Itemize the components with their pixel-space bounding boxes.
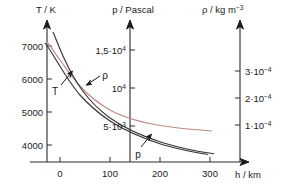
bottom-axis-title: h / km (235, 169, 261, 180)
middle-tick-mantissa-2: 5·10 (103, 121, 122, 132)
svg-text:ρ / kg m−3: ρ / kg m−3 (202, 4, 244, 16)
left-tick-label-7000: 7000 (22, 41, 43, 52)
middle-tick-mantissa-1: 10 (112, 83, 123, 94)
right-axis-title: ρ / kg m−3 (202, 4, 244, 16)
curve-pressure-p (45, 43, 208, 155)
right-axis-title-exponent: −3 (236, 4, 244, 11)
left-axis-group (44, 20, 52, 162)
middle-axis-title: p / Pascal (112, 4, 154, 15)
bottom-tick-label-100: 100 (102, 168, 118, 179)
left-tick-label-4000: 4000 (22, 140, 43, 151)
right-tick-exponent-0: −4 (264, 66, 272, 73)
atmosphere-profile-chart: T / K p / Pascal ρ / kg m−3 h / km 7000 … (0, 0, 281, 187)
curve-label-density: ρ (102, 70, 108, 81)
curve-density-rho (47, 42, 213, 132)
middle-tick-label-10000: 104 (112, 83, 127, 95)
right-tick-label-2e-4: 2·10−4 (245, 93, 272, 105)
middle-tick-label-15000: 1,5·104 (95, 45, 126, 57)
left-axis-title: T / K (36, 4, 57, 15)
right-tick-mantissa-2: 1·10 (245, 120, 264, 131)
middle-axis-group (127, 20, 135, 162)
bottom-tick-label-300: 300 (202, 168, 218, 179)
left-tick-label-5000: 5000 (22, 107, 43, 118)
middle-tick-exponent-0: 4 (122, 45, 126, 52)
left-tick-label-6000: 6000 (22, 74, 43, 85)
middle-tick-exponent-1: 4 (122, 83, 126, 90)
chart-canvas: T / K p / Pascal ρ / kg m−3 h / km 7000 … (0, 0, 281, 187)
right-tick-mantissa-1: 2·10 (245, 93, 264, 104)
right-tick-label-3e-4: 3·10−4 (245, 66, 272, 78)
middle-tick-exponent-2: 3 (122, 121, 126, 128)
right-axis-title-rest: / kg m (207, 4, 236, 15)
right-axis-group (235, 20, 243, 162)
bottom-tick-label-0: 0 (57, 168, 62, 179)
curve-label-temperature: T (52, 86, 58, 97)
right-tick-exponent-2: −4 (264, 120, 272, 127)
bottom-tick-label-200: 200 (152, 168, 168, 179)
middle-tick-label-5000: 5·103 (103, 121, 126, 133)
right-tick-label-1e-4: 1·10−4 (245, 120, 272, 132)
curve-label-pressure: p (135, 149, 141, 160)
right-tick-exponent-1: −4 (264, 93, 272, 100)
right-tick-mantissa-0: 3·10 (245, 66, 264, 77)
middle-tick-mantissa-0: 1,5·10 (95, 45, 122, 56)
